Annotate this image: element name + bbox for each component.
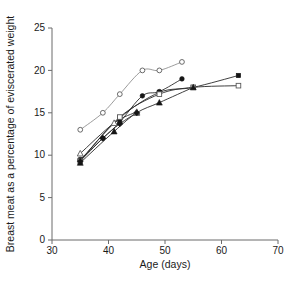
data-point-filled-triangle (156, 100, 162, 106)
y-tick-label: 5 (39, 192, 45, 203)
x-tick-label: 30 (46, 245, 58, 256)
data-point-open-circle (117, 92, 122, 97)
series-line-filled-triangle (80, 87, 193, 162)
y-axis-ticks: 0510152025 (34, 22, 52, 245)
data-point-open-circle (100, 110, 105, 115)
x-axis-title: Age (days) (140, 258, 191, 270)
x-tick-label: 50 (159, 245, 171, 256)
data-point-open-square (236, 83, 241, 88)
y-tick-label: 0 (39, 234, 45, 245)
y-tick-label: 15 (34, 107, 46, 118)
data-point-open-square (118, 115, 123, 120)
data-point-filled-square (236, 73, 240, 77)
data-point-open-square (157, 92, 162, 97)
data-point-open-circle (78, 127, 83, 132)
y-tick-label: 25 (34, 22, 46, 33)
breast-meat-vs-age-line-chart: 0510152025 3040506070 Age (days) Breast … (0, 0, 296, 291)
series-markers-group (77, 60, 241, 166)
data-point-filled-circle (140, 94, 145, 99)
series-line-filled-square (80, 75, 238, 160)
series-line-open-square (80, 86, 238, 161)
x-tick-label: 40 (103, 245, 115, 256)
data-point-open-circle (140, 68, 145, 73)
series-line-open-circle (80, 62, 182, 130)
axes-group (52, 28, 278, 240)
y-tick-label: 10 (34, 149, 46, 160)
data-point-open-circle (157, 68, 162, 73)
data-point-filled-circle (180, 77, 185, 82)
x-tick-label: 60 (216, 245, 228, 256)
x-tick-label: 70 (272, 245, 284, 256)
data-point-open-circle (180, 60, 185, 65)
y-tick-label: 20 (34, 65, 46, 76)
chart-container: 0510152025 3040506070 Age (days) Breast … (0, 0, 296, 291)
y-axis-title: Breast meat as a percentage of eviscerat… (4, 16, 16, 252)
x-axis-ticks: 3040506070 (46, 240, 284, 256)
